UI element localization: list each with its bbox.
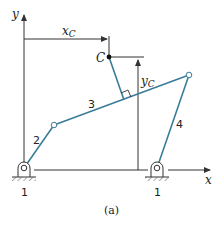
joint-2-3 [51,122,57,128]
coupler-point-arm [109,57,124,100]
link-3-label: 3 [88,98,95,111]
ground-label-right: 1 [154,186,161,199]
ground-pivot-left [12,162,36,181]
yc-label: yC [140,74,155,89]
x-axis-label: x [205,173,212,187]
y-axis-label: y [11,7,19,21]
link-4 [157,75,189,168]
figure-caption: (a) [104,204,119,217]
ground-label-left: 1 [21,186,28,199]
mechanism-diagram: y x xC yC C 2 3 4 1 1 (a) [0,0,220,227]
xc-label: xC [62,24,76,39]
link-2-label: 2 [33,134,40,147]
ground-pivot-right [145,162,169,181]
link-3 [54,75,189,125]
point-c-label: C [96,51,105,65]
joint-3-4 [186,72,192,78]
point-c [107,55,112,60]
link-4-label: 4 [176,118,183,131]
